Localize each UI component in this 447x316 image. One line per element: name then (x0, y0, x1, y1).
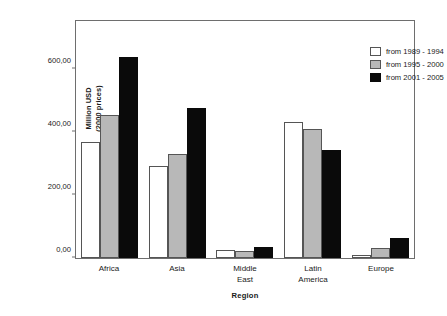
bar[interactable] (100, 115, 119, 258)
bar[interactable] (216, 250, 235, 258)
x-axis-label-line: Asia (143, 264, 211, 275)
bar[interactable] (81, 142, 100, 258)
bar-groups (76, 21, 414, 258)
bar[interactable] (390, 238, 409, 258)
bar[interactable] (371, 248, 390, 258)
x-axis-label: Africa (75, 264, 143, 285)
legend-item: from 1995 - 2000 (370, 58, 444, 71)
bar[interactable] (303, 129, 322, 258)
legend-swatch-icon (370, 47, 381, 56)
legend-item: from 1989 - 1994 (370, 45, 444, 58)
y-axis-tick-label: 400,00 (27, 120, 71, 128)
legend-item: from 2001 - 2005 (370, 71, 444, 84)
x-axis-title: Region (75, 291, 415, 300)
bar-group (279, 21, 347, 258)
bar[interactable] (322, 150, 341, 258)
y-axis-tick-label: 200,00 (27, 183, 71, 191)
x-axis-label: LatinAmerica (279, 264, 347, 285)
plot-area: Million USD (2000 prices) 0,00200,00400,… (75, 20, 415, 259)
bar[interactable] (254, 247, 273, 258)
legend-swatch-icon (370, 60, 381, 69)
bar[interactable] (187, 108, 206, 258)
bar-group (144, 21, 212, 258)
x-axis-label: MiddleEast (211, 264, 279, 285)
y-axis-tick-label: 600,00 (27, 57, 71, 65)
legend-label: from 1995 - 2000 (386, 60, 444, 69)
x-axis-label: Asia (143, 264, 211, 285)
x-axis-label-line: Middle (211, 264, 279, 275)
bar[interactable] (235, 251, 254, 258)
bar[interactable] (284, 122, 303, 258)
y-axis-tick-label: 0,00 (27, 246, 71, 254)
bar[interactable] (119, 57, 138, 258)
x-axis-label-line: Latin (279, 264, 347, 275)
legend-label: from 2001 - 2005 (386, 73, 444, 82)
bar-group (211, 21, 279, 258)
x-axis-label-line: Europe (347, 264, 415, 275)
x-axis-label-line: Africa (75, 264, 143, 275)
bar-group (76, 21, 144, 258)
legend-label: from 1989 - 1994 (386, 47, 444, 56)
x-axis-labels: AfricaAsiaMiddleEastLatinAmericaEurope (75, 264, 415, 285)
x-axis-label: Europe (347, 264, 415, 285)
x-axis-label-line: America (279, 275, 347, 286)
legend-swatch-icon (370, 73, 381, 82)
x-axis-label-line: East (211, 275, 279, 286)
bar[interactable] (352, 255, 371, 258)
legend: from 1989 - 1994 from 1995 - 2000 from 2… (368, 43, 447, 86)
bar[interactable] (149, 166, 168, 258)
bar[interactable] (168, 154, 187, 258)
